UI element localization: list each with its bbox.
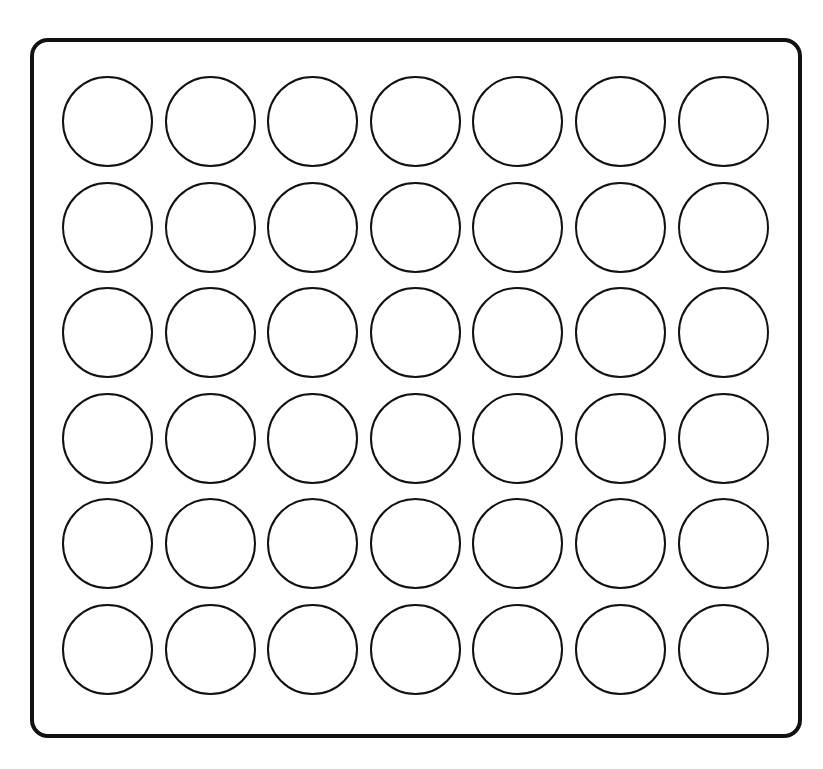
board-slot[interactable] (267, 287, 358, 378)
board-slot[interactable] (575, 182, 666, 273)
board-slot[interactable] (472, 498, 563, 589)
board-slot[interactable] (575, 498, 666, 589)
board-slot[interactable] (267, 182, 358, 273)
board-slot[interactable] (267, 498, 358, 589)
board-slot[interactable] (165, 76, 256, 167)
board-slot[interactable] (678, 498, 769, 589)
board-slot[interactable] (370, 76, 461, 167)
board-slot[interactable] (370, 393, 461, 484)
board-slot[interactable] (472, 393, 563, 484)
board-slot[interactable] (267, 604, 358, 695)
board-slot[interactable] (678, 604, 769, 695)
board-slot[interactable] (575, 287, 666, 378)
board-slot[interactable] (370, 604, 461, 695)
board-slot[interactable] (370, 498, 461, 589)
board-slot[interactable] (62, 287, 153, 378)
board-slot[interactable] (62, 498, 153, 589)
board-slot[interactable] (62, 182, 153, 273)
board-slot[interactable] (267, 76, 358, 167)
board-slot[interactable] (678, 182, 769, 273)
board-slot[interactable] (678, 287, 769, 378)
board-slot[interactable] (575, 393, 666, 484)
game-board (30, 38, 802, 738)
board-slot[interactable] (165, 604, 256, 695)
board-slot[interactable] (165, 182, 256, 273)
board-slot[interactable] (370, 287, 461, 378)
board-slot[interactable] (472, 287, 563, 378)
board-slot[interactable] (472, 76, 563, 167)
board-slot[interactable] (62, 393, 153, 484)
board-slot[interactable] (678, 76, 769, 167)
board-slot[interactable] (165, 287, 256, 378)
board-slot[interactable] (165, 498, 256, 589)
board-slot[interactable] (370, 182, 461, 273)
board-slot[interactable] (575, 76, 666, 167)
board-slot[interactable] (678, 393, 769, 484)
board-slot[interactable] (472, 604, 563, 695)
board-slot[interactable] (62, 604, 153, 695)
board-slot[interactable] (267, 393, 358, 484)
board-slot[interactable] (62, 76, 153, 167)
board-slot[interactable] (575, 604, 666, 695)
board-slot[interactable] (472, 182, 563, 273)
board-slot[interactable] (165, 393, 256, 484)
